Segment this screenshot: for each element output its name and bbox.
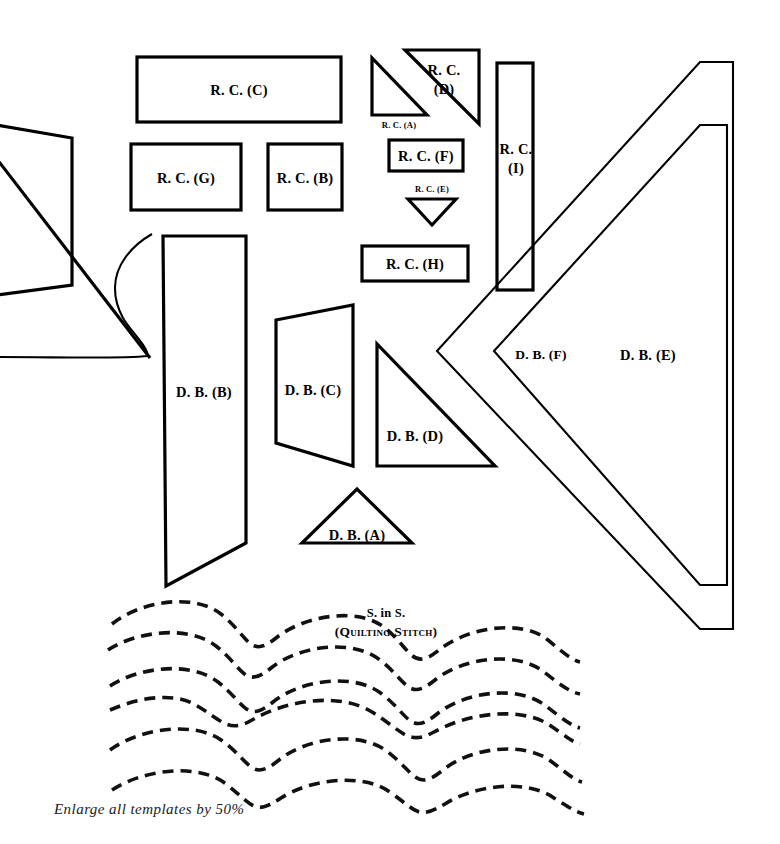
- label-rc-a: R. C. (A): [382, 121, 416, 131]
- shape-db-d: [377, 344, 495, 466]
- label-stitch-line2: (Quilting Stitch): [335, 624, 438, 639]
- label-db-c: D. B. (C): [285, 382, 342, 398]
- label-rc-c: R. C. (C): [210, 82, 267, 98]
- label-stitch-line1: S. in S.: [367, 606, 405, 620]
- label-rc-b: R. C. (B): [277, 170, 334, 186]
- label-db-a: D. B. (A): [329, 527, 386, 543]
- shape-db-e: [437, 62, 733, 629]
- label-rc-e: R. C. (E): [415, 185, 449, 195]
- label-db-b: D. B. (B): [176, 384, 232, 400]
- label-rc-i-line1: R. C.: [500, 141, 533, 157]
- label-rc-f: R. C. (F): [398, 148, 454, 164]
- stitch-wave-row: [108, 633, 580, 694]
- stitch-wave-row: [110, 697, 580, 744]
- label-rc-d-line2: (D): [434, 81, 455, 97]
- label-db-f: D. B. (F): [515, 347, 566, 362]
- label-rc-d-line1: R. C.: [428, 62, 461, 78]
- shape-db-b: [163, 236, 246, 586]
- left-edge-partial-group: [0, 124, 152, 358]
- left-partial-scurve: [0, 234, 152, 358]
- enlarge-instruction-caption: Enlarge all templates by 50%: [54, 801, 244, 818]
- label-rc-g: R. C. (G): [157, 170, 215, 186]
- shape-rc-i: [497, 63, 533, 290]
- stitch-wave-row: [110, 729, 582, 782]
- shape-rc-e: [408, 199, 456, 225]
- label-rc-h: R. C. (H): [386, 256, 444, 272]
- label-db-e: D. B. (E): [620, 347, 676, 363]
- shape-rc-a: [372, 58, 427, 115]
- template-sheet: R. C. (C) R. C. (G) R. C. (B) R. C. (A) …: [0, 0, 780, 844]
- label-db-d: D. B. (D): [387, 428, 444, 444]
- label-rc-i-line2: (I): [508, 160, 524, 176]
